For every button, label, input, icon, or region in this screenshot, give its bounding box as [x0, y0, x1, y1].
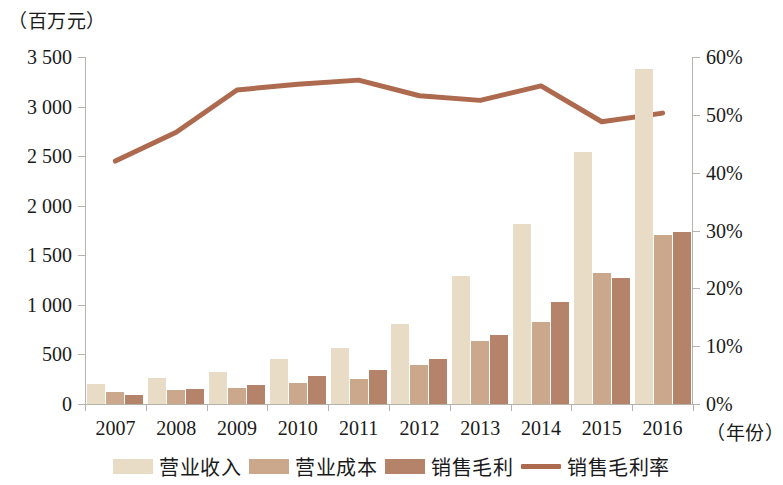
x-axis-tick — [511, 404, 512, 411]
x-axis-tick-label: 2011 — [339, 417, 378, 440]
secondary-y-axis-tick — [693, 288, 700, 289]
x-axis-tick — [389, 404, 390, 411]
x-axis-tick — [146, 404, 147, 411]
secondary-y-axis-tick-label: 60% — [706, 46, 743, 69]
bar-gross-profit — [247, 385, 265, 404]
bar-gross-profit — [551, 302, 569, 404]
x-axis-tick-label: 2015 — [582, 417, 622, 440]
x-axis-tick — [693, 404, 694, 411]
y-axis-tick-label: 2 500 — [27, 145, 72, 168]
bar-revenue — [513, 224, 531, 404]
x-axis-tick-label: 2007 — [95, 417, 135, 440]
bar-revenue — [574, 152, 592, 404]
bar-cost — [532, 322, 550, 404]
y-axis-tick-label: 1 000 — [27, 293, 72, 316]
bar-cost — [228, 388, 246, 404]
y-axis-tick — [78, 404, 85, 405]
y-axis-tick — [78, 107, 85, 108]
bar-revenue — [635, 69, 653, 404]
secondary-y-axis-tick — [693, 173, 700, 174]
bar-gross-profit — [429, 359, 447, 404]
bar-cost — [350, 379, 368, 404]
x-axis-tick — [328, 404, 329, 411]
x-axis-tick-label: 2014 — [521, 417, 561, 440]
bar-gross-profit — [369, 370, 387, 404]
bar-gross-profit — [308, 376, 326, 404]
legend-swatch — [521, 464, 561, 469]
y-axis-tick-label: 500 — [42, 343, 72, 366]
secondary-y-axis-tick-label: 50% — [706, 103, 743, 126]
bar-revenue — [391, 324, 409, 404]
legend-swatch — [249, 459, 289, 474]
legend-label: 销售毛利 — [431, 452, 513, 481]
legend-item: 营业成本 — [249, 452, 377, 481]
legend-item: 销售毛利率 — [521, 452, 670, 481]
y-axis-unit-label: （百万元） — [8, 6, 106, 33]
legend-label: 营业成本 — [295, 452, 377, 481]
y-axis-tick-label: 0 — [62, 393, 72, 416]
bar-revenue — [87, 384, 105, 404]
x-axis-tick — [207, 404, 208, 411]
secondary-y-axis-tick-label: 40% — [706, 161, 743, 184]
bar-cost — [410, 365, 428, 404]
chart-container: （百万元） （年份） 05001 0001 5002 0002 5003 000… — [0, 0, 783, 485]
bar-cost — [289, 383, 307, 404]
bar-revenue — [452, 276, 470, 404]
legend-item: 销售毛利 — [385, 452, 513, 481]
x-axis-tick — [450, 404, 451, 411]
bar-revenue — [148, 378, 166, 404]
x-axis-tick-label: 2012 — [399, 417, 439, 440]
secondary-y-axis-tick — [693, 404, 700, 405]
bar-revenue — [331, 348, 349, 405]
x-axis-tick-label: 2016 — [643, 417, 683, 440]
y-axis-tick — [78, 156, 85, 157]
x-axis-tick-label: 2010 — [278, 417, 318, 440]
legend-swatch — [113, 459, 153, 474]
bar-gross-profit — [612, 278, 630, 404]
y-axis-tick — [78, 354, 85, 355]
bar-cost — [167, 390, 185, 404]
bar-cost — [593, 273, 611, 404]
y-axis-tick — [78, 255, 85, 256]
x-axis-tick-label: 2013 — [460, 417, 500, 440]
x-axis-tick — [267, 404, 268, 411]
bar-revenue — [270, 359, 288, 404]
x-axis-unit-label: （年份） — [706, 418, 783, 445]
secondary-y-axis-tick — [693, 346, 700, 347]
legend-item: 营业收入 — [113, 452, 241, 481]
secondary-y-axis-tick — [693, 115, 700, 116]
y-axis-tick-label: 2 000 — [27, 194, 72, 217]
x-axis-tick — [632, 404, 633, 411]
bar-gross-profit — [673, 232, 691, 404]
legend-label: 营业收入 — [159, 452, 241, 481]
legend-label: 销售毛利率 — [567, 452, 670, 481]
secondary-y-axis-tick-label: 0% — [706, 393, 733, 416]
x-axis-tick-label: 2009 — [217, 417, 257, 440]
bar-gross-profit — [125, 395, 143, 404]
secondary-y-axis-tick-label: 10% — [706, 335, 743, 358]
x-axis-tick — [85, 404, 86, 411]
secondary-y-axis-tick — [693, 231, 700, 232]
secondary-y-axis-tick — [693, 57, 700, 58]
x-axis-tick — [571, 404, 572, 411]
secondary-y-axis-tick-label: 30% — [706, 219, 743, 242]
bar-cost — [654, 235, 672, 404]
bar-gross-profit — [186, 389, 204, 404]
y-axis-tick-label: 3 500 — [27, 46, 72, 69]
bar-revenue — [209, 372, 227, 404]
gross-margin-line — [115, 80, 662, 161]
y-axis-tick-label: 3 000 — [27, 95, 72, 118]
bar-cost — [106, 392, 124, 404]
bar-gross-profit — [490, 335, 508, 404]
y-axis-tick — [78, 206, 85, 207]
secondary-y-axis-tick-label: 20% — [706, 277, 743, 300]
bar-cost — [471, 341, 489, 404]
x-axis-tick-label: 2008 — [156, 417, 196, 440]
legend-swatch — [385, 459, 425, 474]
left-axis-line — [85, 57, 86, 405]
y-axis-tick — [78, 57, 85, 58]
y-axis-tick-label: 1 500 — [27, 244, 72, 267]
plot-area: 05001 0001 5002 0002 5003 0003 5000%10%2… — [85, 57, 693, 405]
chart-legend: 营业收入营业成本销售毛利销售毛利率 — [0, 452, 783, 481]
y-axis-tick — [78, 305, 85, 306]
